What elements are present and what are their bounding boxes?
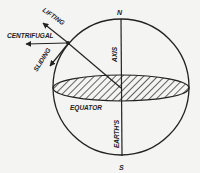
sliding-label: SLIDING	[32, 46, 52, 72]
north-label: N	[117, 9, 123, 16]
lifting-label: LIFTING	[41, 6, 66, 26]
earths-label: EARTH'S	[113, 119, 120, 148]
sliding-arrow	[50, 45, 67, 66]
equator-label: EQUATOR	[70, 104, 102, 112]
earth-forces-diagram: N S AXIS EARTH'S EQUATOR LIFTING CENTRIF…	[0, 0, 200, 173]
south-label: S	[119, 164, 124, 171]
axis-label: AXIS	[111, 46, 118, 63]
centrifugal-label: CENTRIFUGAL	[7, 32, 54, 39]
centrifugal-arrow	[26, 43, 67, 44]
